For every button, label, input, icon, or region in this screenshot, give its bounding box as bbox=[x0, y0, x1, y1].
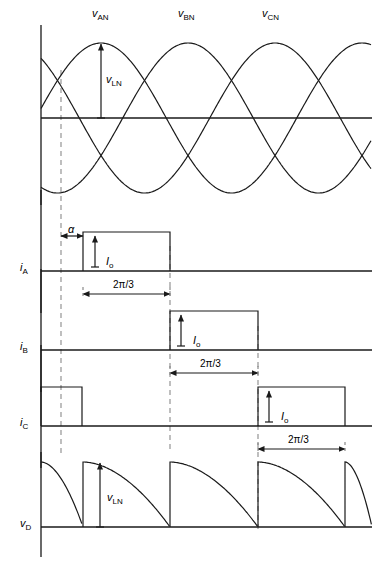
label-v-an: vAN bbox=[92, 8, 109, 19]
label-i-c: iC bbox=[20, 417, 28, 428]
label-v-bn: vBN bbox=[178, 8, 195, 19]
label-io-phase-b: Io bbox=[193, 335, 201, 346]
label-v-cn: vCN bbox=[262, 8, 279, 19]
label-io-phase-a: Io bbox=[106, 256, 114, 267]
label-v-ln-output: vLN bbox=[107, 492, 123, 503]
label-conduction-angle-c: 2π/3 bbox=[288, 435, 309, 445]
label-conduction-angle-a: 2π/3 bbox=[113, 280, 134, 290]
output-voltage-waveform bbox=[41, 462, 371, 527]
label-conduction-angle-b: 2π/3 bbox=[200, 359, 221, 369]
dimension-annotations bbox=[61, 44, 345, 527]
label-io-phase-c: Io bbox=[281, 411, 289, 422]
label-i-a: iA bbox=[20, 262, 28, 273]
current-pulse-waveforms bbox=[41, 232, 345, 426]
label-firing-angle-alpha: α bbox=[68, 224, 74, 235]
waveform-canvas bbox=[0, 0, 377, 562]
trace-axes bbox=[41, 25, 372, 557]
label-i-b: iB bbox=[20, 341, 28, 352]
waveform-figure: vAN vBN vCN vLN iA iB iC vD Io Io Io α 2… bbox=[0, 0, 377, 562]
label-v-ln-voltage: vLN bbox=[106, 74, 122, 85]
label-v-d: vD bbox=[20, 518, 31, 529]
